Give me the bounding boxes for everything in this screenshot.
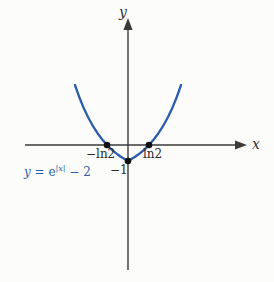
curve-equation-label: y = e|x| − 2 xyxy=(24,166,91,178)
tick-label-neg-one: −1 xyxy=(110,164,128,176)
x-axis-label: x xyxy=(252,137,260,151)
equation-tail: − 2 xyxy=(65,165,90,179)
y-axis-label: y xyxy=(119,5,127,19)
tick-label-ln2: ln2 xyxy=(143,148,162,160)
tick-label-neg-ln2: −ln2 xyxy=(86,148,115,160)
equation-exponent: |x| xyxy=(56,164,66,173)
equation-lhs: y xyxy=(24,165,31,179)
equation-equals: = xyxy=(31,165,49,179)
function-graph-figure: y x −ln2 ln2 −1 y = e|x| − 2 xyxy=(0,0,274,282)
x-axis-arrowhead xyxy=(235,140,247,149)
plot-canvas xyxy=(0,0,274,282)
equation-base: e xyxy=(48,165,55,179)
